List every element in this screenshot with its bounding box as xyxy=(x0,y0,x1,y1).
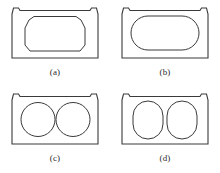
girder-void-circle-left-c xyxy=(21,103,55,137)
figure-panel-b: (b) xyxy=(110,0,220,86)
panel-label-a: (a) xyxy=(0,66,110,78)
cross-section-diagram-b xyxy=(110,0,220,68)
panel-label-b: (b) xyxy=(110,66,220,78)
girder-void-stadium-left-d xyxy=(133,101,163,139)
figure-sheet: (a) (b) (c) (d) xyxy=(0,0,220,173)
panel-label-c: (c) xyxy=(0,152,110,164)
panel-label-d: (d) xyxy=(110,152,220,164)
figure-panel-a: (a) xyxy=(0,0,110,86)
cross-section-diagram-c xyxy=(0,86,110,154)
girder-void-stadium-right-d xyxy=(167,101,197,139)
cross-section-diagram-a xyxy=(0,0,110,68)
figure-panel-d: (d) xyxy=(110,86,220,172)
girder-void-stadium-b xyxy=(131,16,199,50)
girder-void-circle-right-c xyxy=(56,103,90,137)
cross-section-diagram-d xyxy=(110,86,220,154)
girder-void-octagon-a xyxy=(25,17,85,52)
figure-panel-c: (c) xyxy=(0,86,110,172)
